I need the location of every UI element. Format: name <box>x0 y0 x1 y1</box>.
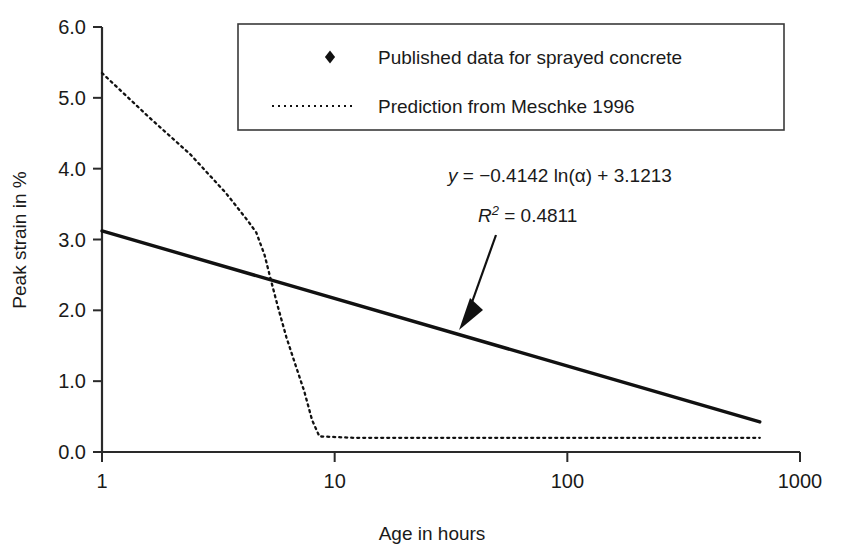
y-tick-label: 3.0 <box>58 229 86 251</box>
x-tick-label: 10 <box>324 470 346 492</box>
chart-container: 0.01.02.03.04.05.06.0 1101001000 Age in … <box>0 0 864 560</box>
y-tick-label: 6.0 <box>58 16 86 38</box>
y-axis-title: Peak strain in % <box>9 171 30 308</box>
x-tick-label: 100 <box>551 470 584 492</box>
y-tick-label: 2.0 <box>58 299 86 321</box>
x-tick-label: 1 <box>96 470 107 492</box>
legend-item-label-0: Published data for sprayed concrete <box>378 47 682 68</box>
y-tick-label: 5.0 <box>58 87 86 109</box>
legend: Published data for sprayed concrete Pred… <box>238 24 784 130</box>
y-tick-label: 1.0 <box>58 370 86 392</box>
equation-body: = −0.4142 ln(α) + 3.1213 <box>458 165 672 186</box>
x-axis-title: Age in hours <box>379 523 486 544</box>
y-tick-label: 0.0 <box>58 441 86 463</box>
scatter-chart: 0.01.02.03.04.05.06.0 1101001000 Age in … <box>0 0 864 560</box>
r-squared-value: = 0.4811 <box>499 205 577 226</box>
equation-text: y = −0.4142 ln(α) + 3.1213 <box>446 165 672 186</box>
y-tick-label: 4.0 <box>58 158 86 180</box>
x-tick-label: 1000 <box>778 470 823 492</box>
legend-item-label-1: Prediction from Meschke 1996 <box>378 96 635 117</box>
r-squared-symbol: R <box>478 205 492 226</box>
